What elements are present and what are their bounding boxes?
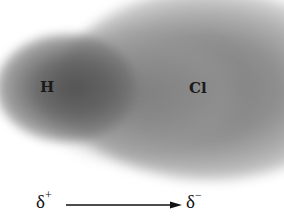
partial-negative-label: δ− (186, 190, 202, 213)
plus-sign: + (45, 188, 52, 202)
hydrogen-label: H (40, 78, 54, 96)
delta-symbol: δ (36, 191, 45, 212)
partial-positive-label: δ+ (36, 190, 52, 213)
hcl-electron-density-diagram: H Cl δ+ δ− (0, 0, 284, 222)
hydrogen-electron-cloud (0, 34, 136, 142)
chlorine-label: Cl (189, 79, 207, 97)
right-arrow-icon (66, 201, 182, 209)
delta-symbol: δ (186, 191, 195, 212)
minus-sign: − (195, 188, 202, 202)
